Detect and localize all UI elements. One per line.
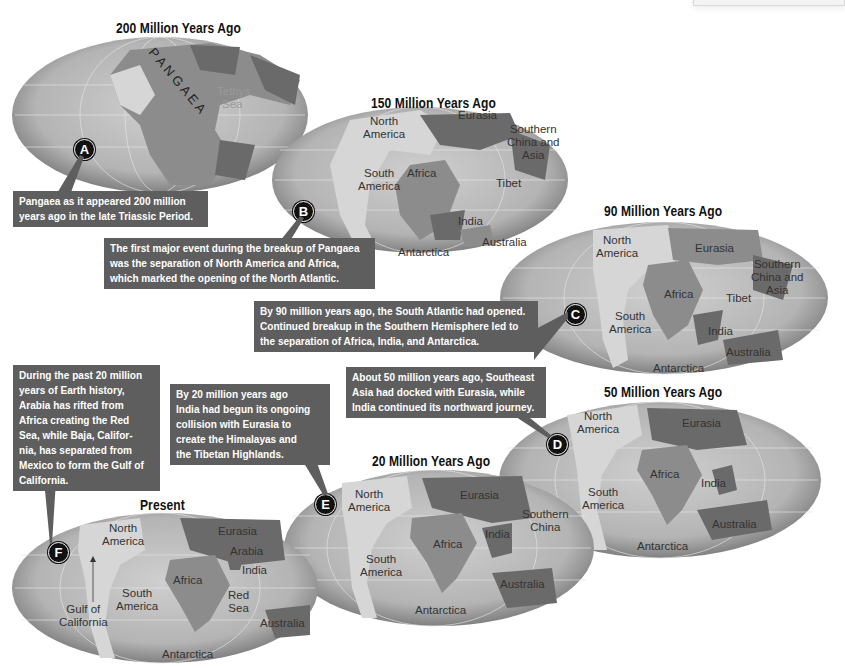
label-red-sea: RedSea xyxy=(228,589,249,615)
globe-present xyxy=(10,510,320,665)
label-north-america: NorthAmerica xyxy=(102,522,144,548)
label-africa: Africa xyxy=(664,288,693,301)
label-antarctica: Antarctica xyxy=(637,540,688,553)
pointer-a xyxy=(50,155,90,195)
label-eurasia: Eurasia xyxy=(460,489,499,502)
label-india: India xyxy=(242,564,267,577)
label-antarctica: Antarctica xyxy=(653,362,704,375)
label-south-america: SouthAmerica xyxy=(360,553,402,579)
label-south-america: SouthAmerica xyxy=(358,167,400,193)
label-south-america: SouthAmerica xyxy=(609,310,651,336)
label-tethys: Tethys xyxy=(217,85,250,98)
marker-f: F xyxy=(48,542,69,563)
title-50mya: 50 Million Years Ago xyxy=(604,384,722,400)
label-north-america: NorthAmerica xyxy=(363,115,405,141)
label-antarctica: Antarctica xyxy=(162,648,213,661)
callout-b: The first major event during the breakup… xyxy=(104,238,375,289)
label-tibet: Tibet xyxy=(496,177,521,190)
callout-d: About 50 million years ago, SoutheastAsi… xyxy=(346,367,546,418)
label-north-america: NorthAmerica xyxy=(596,234,638,260)
label-antarctica: Antarctica xyxy=(398,246,449,259)
label-india: India xyxy=(708,325,733,338)
pointer-c xyxy=(534,310,568,360)
title-150mya: 150 Million Years Ago xyxy=(371,95,496,111)
title-90mya: 90 Million Years Ago xyxy=(604,203,722,219)
label-arabia: Arabia xyxy=(230,545,263,558)
label-india: India xyxy=(458,215,483,228)
label-eurasia: Eurasia xyxy=(682,417,721,430)
label-eurasia: Eurasia xyxy=(218,525,257,538)
label-south-america: SouthAmerica xyxy=(116,587,158,613)
label-southern-china: SouthernChina xyxy=(522,508,569,534)
callout-a: Pangaea as it appeared 200 millionyears … xyxy=(13,191,208,227)
label-gulf-of-california: Gulf ofCalifornia xyxy=(59,603,108,629)
gulf-pointer-arrow xyxy=(90,556,96,602)
label-india: India xyxy=(485,528,510,541)
label-africa: Africa xyxy=(407,167,436,180)
label-africa: Africa xyxy=(433,538,462,551)
label-africa: Africa xyxy=(650,468,679,481)
callout-c: By 90 million years ago, the South Atlan… xyxy=(254,301,538,352)
label-eurasia: Eurasia xyxy=(695,242,734,255)
map-present: NorthAmerica Eurasia Arabia India Africa… xyxy=(10,510,320,665)
label-india: India xyxy=(701,477,726,490)
label-antarctica: Antarctica xyxy=(415,604,466,617)
label-north-america: NorthAmerica xyxy=(577,410,619,436)
label-southern-china-asia: SouthernChina andAsia xyxy=(751,258,803,297)
label-australia: Australia xyxy=(260,617,305,630)
label-sea: Sea xyxy=(222,98,242,111)
pointer-e xyxy=(302,460,332,496)
label-tibet: Tibet xyxy=(726,292,751,305)
title-present: Present xyxy=(140,497,185,513)
label-africa: Africa xyxy=(173,574,202,587)
callout-e: By 20 million years agoIndia had begun i… xyxy=(170,384,330,465)
label-north-america: NorthAmerica xyxy=(348,488,390,514)
marker-c: C xyxy=(565,304,586,325)
corner-frame xyxy=(693,0,845,6)
title-200mya: 200 Million Years Ago xyxy=(116,20,241,36)
callout-f: During the past 20 millionyears of Earth… xyxy=(13,365,160,491)
label-australia: Australia xyxy=(726,346,771,359)
label-australia: Australia xyxy=(712,518,757,531)
label-australia: Australia xyxy=(500,578,545,591)
label-southern-china-asia: SouthernChina andAsia xyxy=(507,123,559,162)
title-20mya: 20 Million Years Ago xyxy=(372,453,490,469)
